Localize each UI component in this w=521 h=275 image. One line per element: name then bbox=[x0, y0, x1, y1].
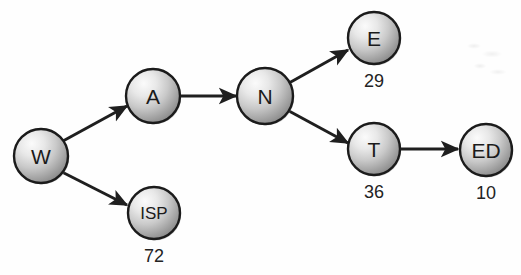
node-value: 10 bbox=[476, 183, 496, 203]
node-label: E bbox=[367, 27, 381, 50]
edge-w-to-a bbox=[63, 106, 127, 141]
edge-n-to-e bbox=[289, 50, 348, 83]
node-a[interactable]: A bbox=[126, 69, 181, 124]
node-n[interactable]: N bbox=[237, 68, 294, 125]
node-isp[interactable]: ISP72 bbox=[128, 187, 181, 266]
node-value: 72 bbox=[144, 246, 164, 266]
node-w[interactable]: W bbox=[14, 129, 69, 184]
node-e[interactable]: E29 bbox=[348, 12, 401, 91]
node-label: T bbox=[368, 138, 381, 161]
node-ed[interactable]: ED10 bbox=[460, 124, 513, 203]
node-label: ISP bbox=[140, 204, 167, 223]
node-label: N bbox=[257, 85, 272, 108]
node-value: 29 bbox=[364, 71, 384, 91]
edge-n-to-t bbox=[289, 111, 348, 143]
node-value: 36 bbox=[364, 182, 384, 202]
node-label: W bbox=[31, 145, 51, 168]
graph-svg: WAISP72NE29T36ED10 bbox=[0, 0, 521, 275]
diagram-canvas: WAISP72NE29T36ED10 bbox=[0, 0, 521, 275]
node-t[interactable]: T36 bbox=[348, 123, 401, 202]
node-label: ED bbox=[471, 139, 500, 162]
edge-w-to-isp bbox=[62, 172, 127, 205]
node-label: A bbox=[146, 85, 160, 108]
nodes-layer: WAISP72NE29T36ED10 bbox=[14, 12, 513, 266]
